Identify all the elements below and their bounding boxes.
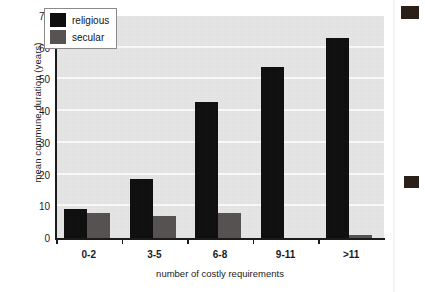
scan-edge-strip	[393, 0, 395, 292]
bar-secular-02	[87, 213, 110, 238]
bar-religious-35	[130, 179, 153, 238]
x-tick-mark	[122, 239, 124, 244]
plot-area	[56, 16, 384, 238]
scan-artifact-middle	[404, 176, 419, 188]
x-tick-label: 3-5	[119, 249, 189, 260]
legend-swatch-religious-icon	[50, 13, 66, 27]
x-tick-mark	[56, 239, 58, 244]
x-tick-label: >11	[316, 249, 386, 260]
y-tick-label: 40	[24, 106, 50, 117]
legend-label-secular: secular	[72, 32, 104, 43]
y-tick-label: 20	[24, 169, 50, 180]
x-axis-line	[55, 238, 385, 240]
chart-legend: religious secular	[44, 8, 117, 49]
x-tick-mark	[318, 239, 320, 244]
x-tick-label: 0-2	[54, 249, 124, 260]
legend-item-secular: secular	[50, 30, 109, 44]
y-tick-label: 30	[24, 137, 50, 148]
x-axis-title: number of costly requirements	[56, 268, 384, 279]
x-tick-mark	[253, 239, 255, 244]
bar-religious-02	[64, 209, 87, 238]
y-tick-label: 50	[24, 74, 50, 85]
legend-swatch-secular-icon	[50, 30, 66, 44]
scan-artifact-top	[401, 6, 419, 19]
bar-secular-68	[218, 213, 241, 238]
bar-religious-68	[195, 102, 218, 238]
bar-religious-11	[326, 38, 349, 238]
bar-secular-35	[153, 216, 176, 238]
x-tick-label: 9-11	[251, 249, 321, 260]
y-tick-label: 0	[24, 233, 50, 244]
legend-label-religious: religious	[72, 15, 109, 26]
bar-chart-figure: mean commune duration (years) 0102030405…	[0, 0, 425, 292]
x-tick-label: 6-8	[185, 249, 255, 260]
legend-item-religious: religious	[50, 13, 109, 27]
x-tick-mark	[187, 239, 189, 244]
bar-religious-911	[261, 67, 284, 238]
y-tick-label: 10	[24, 201, 50, 212]
